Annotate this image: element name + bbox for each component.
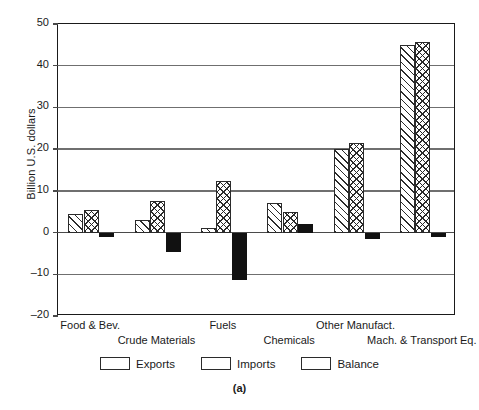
bar-exports-3 <box>201 228 216 232</box>
y-axis-tick-label: 10 <box>11 183 49 195</box>
y-axis-tick-label: 30 <box>11 99 49 111</box>
legend-entry-imports: Imports <box>201 357 275 370</box>
legend-entry-balance: Balance <box>301 357 379 370</box>
y-axis-tick <box>53 23 58 24</box>
gridline <box>58 274 454 275</box>
bar-imports-3 <box>216 181 231 232</box>
y-axis-tick-label: 40 <box>11 58 49 70</box>
legend-entry-exports: Exports <box>100 357 175 370</box>
chart-legend: ExportsImportsBalance <box>0 357 479 370</box>
y-axis-tick-label: 0 <box>11 225 49 237</box>
bar-imports-5 <box>349 143 364 233</box>
legend-label-exports: Exports <box>136 358 175 370</box>
y-axis-tick <box>53 190 58 191</box>
gridline <box>58 148 454 149</box>
bar-exports-5 <box>334 149 349 232</box>
y-axis-tick <box>53 148 58 149</box>
gridline <box>58 190 454 191</box>
plot-area <box>57 23 455 315</box>
y-axis-tick <box>53 107 58 108</box>
y-axis-title: Billion U.S. dollars <box>25 69 37 239</box>
zero-baseline <box>58 232 454 233</box>
bar-balance-1 <box>99 233 114 237</box>
bar-imports-1 <box>84 210 99 232</box>
gridline <box>58 107 454 108</box>
x-axis-label-6: Mach. & Transport Eq. <box>342 334 479 346</box>
bar-exports-6 <box>400 45 415 233</box>
bar-balance-6 <box>431 233 446 237</box>
bar-exports-4 <box>267 203 282 232</box>
legend-swatch-exports <box>100 357 130 370</box>
bar-exports-1 <box>68 214 83 233</box>
y-axis-tick-label: 50 <box>11 16 49 28</box>
bar-balance-2 <box>166 233 181 253</box>
legend-label-balance: Balance <box>337 358 379 370</box>
y-axis-tick <box>53 232 58 233</box>
y-axis-tick-label: 20 <box>11 141 49 153</box>
y-axis-tick <box>53 274 58 275</box>
bar-imports-4 <box>283 212 298 233</box>
y-axis-tick-label: –10 <box>11 266 49 278</box>
legend-swatch-balance <box>301 357 331 370</box>
bar-chart-figure: Billion U.S. dollars 50403020100–10–20 F… <box>0 0 479 410</box>
x-axis-label-5: Other Manufact. <box>276 319 436 331</box>
y-axis-tick <box>53 315 58 316</box>
figure-caption: (a) <box>0 382 479 394</box>
y-axis-tick <box>53 65 58 66</box>
bar-balance-4 <box>298 224 313 232</box>
legend-label-imports: Imports <box>237 358 275 370</box>
bar-exports-2 <box>135 220 150 233</box>
gridline <box>58 65 454 66</box>
legend-swatch-imports <box>201 357 231 370</box>
bar-balance-5 <box>365 233 380 239</box>
bar-imports-2 <box>150 201 165 232</box>
bar-imports-6 <box>415 42 430 233</box>
bar-balance-3 <box>232 233 247 280</box>
